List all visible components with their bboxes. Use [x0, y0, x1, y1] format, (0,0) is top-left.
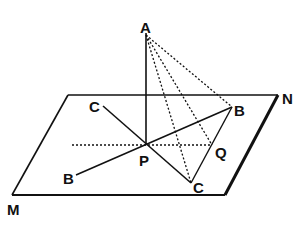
label-c-upper: C [89, 98, 100, 115]
label-b-lower: B [63, 170, 74, 187]
label-m: M [7, 201, 20, 218]
dotted-a-b [146, 35, 232, 107]
dotted-a-q [146, 35, 212, 145]
label-b-upper: B [234, 102, 245, 119]
label-q: Q [215, 144, 227, 161]
plane-right-edge [225, 95, 278, 195]
line-bb [76, 107, 232, 175]
plane-left-edge [12, 95, 68, 195]
label-p: P [139, 152, 149, 169]
label-a: A [140, 19, 151, 36]
label-n: N [282, 90, 293, 107]
label-c-lower: C [193, 179, 204, 196]
geometry-diagram: A N M P Q B B C C [0, 0, 305, 227]
dotted-a-c [146, 35, 191, 183]
